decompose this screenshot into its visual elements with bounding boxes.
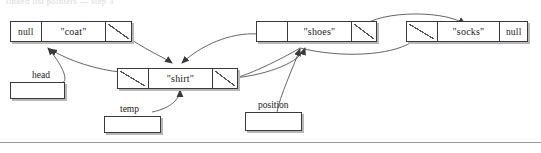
node-shoes-prev-cell[interactable]	[257, 22, 287, 41]
diagram-canvas: linked list pointers — step 3	[0, 0, 541, 153]
node-coat-value: "coat"	[60, 26, 86, 37]
node-socks-next-label: null	[506, 27, 522, 37]
node-shirt-prev-cell[interactable]	[118, 69, 148, 88]
node-shoes-next-cell[interactable]	[351, 22, 376, 41]
list-node-socks[interactable]: "socks" null	[406, 21, 528, 42]
node-socks-prev-cell[interactable]	[407, 22, 437, 41]
arrow-socks-prev-to-shoes	[300, 42, 412, 54]
variable-box-position[interactable]	[245, 112, 302, 131]
variable-box-temp[interactable]	[104, 116, 161, 133]
clipped-top-caption: linked list pointers — step 3	[6, 0, 114, 6]
node-coat-prev-cell[interactable]: null	[11, 22, 41, 41]
node-coat-next-cell[interactable]	[105, 22, 131, 41]
node-shirt-value: "shirt"	[167, 73, 194, 84]
list-node-coat[interactable]: null "coat"	[10, 21, 132, 42]
node-shirt-next-cell[interactable]	[212, 69, 237, 88]
arrow-shirt-prev-to-coat	[50, 49, 120, 72]
arrow-shoes-prev-to-shirt	[182, 34, 258, 63]
node-socks-next-cell[interactable]: null	[499, 22, 527, 41]
list-node-shirt[interactable]: "shirt"	[117, 68, 238, 89]
node-coat-value-cell: "coat"	[41, 22, 106, 41]
node-shoes-value-cell: "shoes"	[287, 22, 352, 41]
node-shoes-value: "shoes"	[304, 26, 336, 37]
node-socks-value-cell: "socks"	[437, 22, 500, 41]
variable-label-head: head	[32, 70, 50, 80]
variable-box-head[interactable]	[10, 82, 65, 99]
variable-label-temp: temp	[120, 104, 139, 114]
arrow-coat-next-to-shirt	[132, 40, 172, 63]
arrow-temp-to-shirt	[152, 90, 180, 112]
node-shirt-value-cell: "shirt"	[148, 69, 213, 88]
list-node-shoes[interactable]: "shoes"	[256, 21, 377, 42]
bottom-divider	[0, 142, 541, 143]
variable-label-position: position	[258, 100, 289, 110]
node-coat-prev-label: null	[18, 27, 34, 37]
node-socks-value: "socks"	[453, 26, 485, 37]
